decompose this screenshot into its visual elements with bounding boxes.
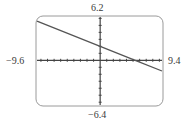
graph-window [0,0,186,123]
axes [37,17,162,105]
plot-line [37,21,162,71]
graph-frame [36,16,163,106]
series-line [37,21,162,71]
